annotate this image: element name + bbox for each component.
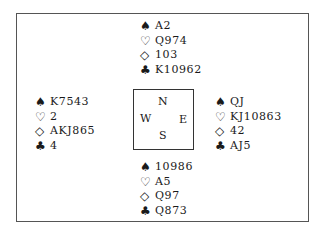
south-diamonds: ◇Q97 bbox=[140, 189, 193, 204]
east-clubs: ♣AJ5 bbox=[215, 139, 282, 154]
spade-icon: ♠ bbox=[35, 95, 50, 110]
east-hearts: ♡KJ10863 bbox=[215, 110, 282, 125]
east-hand: ♠QJ ♡KJ10863 ◇42 ♣AJ5 bbox=[215, 95, 282, 153]
diamond-icon: ◇ bbox=[140, 48, 155, 63]
compass-west: W bbox=[140, 112, 151, 125]
north-clubs: ♣K10962 bbox=[140, 63, 202, 78]
compass-south: S bbox=[159, 129, 167, 142]
north-diamonds: ◇103 bbox=[140, 48, 202, 63]
diamond-icon: ◇ bbox=[140, 189, 155, 204]
south-hand: ♠10986 ♡A5 ◇Q97 ♣Q873 bbox=[140, 160, 193, 218]
south-spades: ♠10986 bbox=[140, 160, 193, 175]
south-hearts: ♡A5 bbox=[140, 175, 193, 190]
heart-icon: ♡ bbox=[140, 175, 155, 190]
compass-east: E bbox=[179, 113, 187, 126]
spade-icon: ♠ bbox=[140, 19, 155, 34]
compass-north: N bbox=[158, 95, 168, 108]
east-diamonds: ◇42 bbox=[215, 124, 282, 139]
diamond-icon: ◇ bbox=[35, 124, 50, 139]
club-icon: ♣ bbox=[140, 63, 155, 78]
west-hearts: ♡2 bbox=[35, 110, 95, 125]
north-spades: ♠A2 bbox=[140, 19, 202, 34]
west-hand: ♠K7543 ♡2 ◇AKJ865 ♣4 bbox=[35, 95, 95, 153]
south-clubs: ♣Q873 bbox=[140, 204, 193, 219]
diamond-icon: ◇ bbox=[215, 124, 230, 139]
heart-icon: ♡ bbox=[35, 110, 50, 125]
north-hand: ♠A2 ♡Q974 ◇103 ♣K10962 bbox=[140, 19, 202, 77]
east-spades: ♠QJ bbox=[215, 95, 282, 110]
west-diamonds: ◇AKJ865 bbox=[35, 124, 95, 139]
spade-icon: ♠ bbox=[140, 160, 155, 175]
west-spades: ♠K7543 bbox=[35, 95, 95, 110]
heart-icon: ♡ bbox=[215, 110, 230, 125]
club-icon: ♣ bbox=[215, 139, 230, 154]
club-icon: ♣ bbox=[140, 204, 155, 219]
club-icon: ♣ bbox=[35, 139, 50, 154]
heart-icon: ♡ bbox=[140, 34, 155, 49]
north-hearts: ♡Q974 bbox=[140, 34, 202, 49]
compass-box: N W E S bbox=[133, 89, 194, 150]
spade-icon: ♠ bbox=[215, 95, 230, 110]
west-clubs: ♣4 bbox=[35, 139, 95, 154]
